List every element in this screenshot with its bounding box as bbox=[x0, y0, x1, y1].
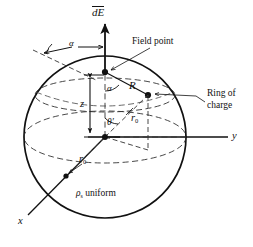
alpha-top-angle-arc bbox=[47, 44, 52, 52]
alpha-field-label: α bbox=[107, 84, 112, 93]
uniform-word: uniform bbox=[85, 188, 116, 198]
z-label: z bbox=[80, 98, 84, 109]
dE-vector-label: dE bbox=[92, 6, 104, 19]
alpha-top-label: α bbox=[69, 39, 74, 48]
ring-of-charge-label-line1: Ring of bbox=[207, 89, 236, 99]
physics-diagram-figure: dE Field point Ring of charge α α R z θ′… bbox=[0, 0, 253, 247]
dE-overbar-text: dE bbox=[92, 6, 104, 18]
diagram-canvas bbox=[0, 0, 253, 247]
r0-upper-subscript: 0 bbox=[135, 117, 138, 124]
r0-line-upper bbox=[105, 95, 148, 137]
R-label: R bbox=[129, 80, 136, 92]
theta-prime-label: θ′ bbox=[107, 118, 114, 128]
charge-density-label: ρs uniform bbox=[76, 189, 116, 199]
r0-upper-label: r0 bbox=[131, 112, 138, 125]
theta-prime-mark: ′ bbox=[112, 117, 114, 127]
r0-lower-subscript: 0 bbox=[83, 158, 86, 165]
x-axis-label: x bbox=[18, 215, 23, 226]
r0-lower-label: r0 bbox=[79, 153, 86, 166]
ring-of-charge-leader-tail bbox=[196, 96, 205, 102]
ring-of-charge-label-line2: charge bbox=[207, 101, 232, 111]
field-point-label: Field point bbox=[132, 37, 173, 47]
alpha-tangent-dashed-line bbox=[33, 50, 96, 80]
x-axis-radius-point bbox=[63, 173, 68, 178]
ring-projection-line bbox=[105, 137, 148, 150]
y-axis-label: y bbox=[232, 130, 237, 141]
